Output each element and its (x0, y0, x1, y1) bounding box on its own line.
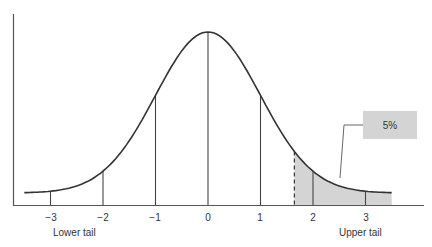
normal-distribution-diagram: 5% −3 −2 −1 0 1 2 3 Lower tail Upper tai… (0, 0, 432, 247)
lower-tail-label: Lower tail (53, 227, 96, 238)
tick-label-2: 2 (310, 212, 316, 223)
tick-label-neg1: −1 (149, 212, 161, 223)
tick-label-1: 1 (257, 212, 263, 223)
callout: 5% (340, 111, 417, 178)
x-tick-labels: −3 −2 −1 0 1 2 3 (45, 212, 369, 223)
tick-label-neg2: −2 (97, 212, 109, 223)
upper-tail-shaded-area (294, 151, 391, 205)
tick-label-0: 0 (205, 212, 211, 223)
callout-label: 5% (383, 120, 398, 131)
tick-label-3: 3 (363, 212, 369, 223)
callout-leader-line (340, 125, 363, 178)
tick-label-neg3: −3 (45, 212, 57, 223)
upper-tail-label: Upper tail (339, 227, 382, 238)
